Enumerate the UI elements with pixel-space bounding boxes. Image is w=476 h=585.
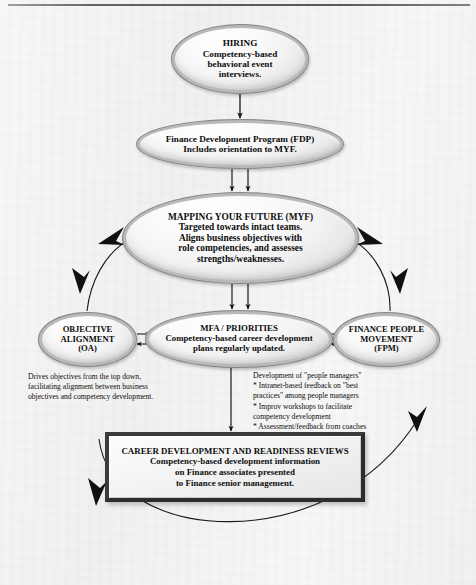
node-crr-body: Competency-based development information…: [121, 456, 348, 488]
node-crr-text: CAREER DEVELOPMENT AND READINESS REVIEWS…: [115, 446, 354, 489]
node-fdp-text: Finance Development Program (FDP) Includ…: [160, 134, 321, 155]
node-oa-heading: OBJECTIVE ALIGNMENT (OA): [61, 325, 115, 354]
node-hiring-text: HIRING Competency-based behavioral event…: [197, 38, 284, 79]
node-myf-body: Targeted towards intact teams. Aligns bu…: [168, 222, 313, 264]
node-hiring-body: Competency-based behavioral event interv…: [203, 49, 278, 80]
node-finance-development-program[interactable]: Finance Development Program (FDP) Includ…: [136, 119, 344, 169]
note-objective-alignment: Drives objectives from the top down, fac…: [28, 372, 224, 403]
node-mfa-priorities[interactable]: MFA / PRIORITIES Competency-based career…: [145, 310, 333, 368]
connector-myf-to-mfa: [232, 284, 248, 309]
node-fdp-body: Includes orientation to MYF.: [166, 144, 315, 154]
connector-fdp-to-myf: [232, 169, 248, 191]
node-fpm-heading: FINANCE PEOPLE MOVEMENT (FPM): [349, 325, 425, 354]
node-crr-heading: CAREER DEVELOPMENT AND READINESS REVIEWS: [121, 446, 348, 457]
node-mfa-body: Competency-based career development plan…: [165, 334, 312, 354]
node-finance-people-movement[interactable]: FINANCE PEOPLE MOVEMENT (FPM): [333, 312, 440, 367]
node-mapping-your-future[interactable]: MAPPING YOUR FUTURE (MYF) Targeted towar…: [122, 192, 359, 284]
node-career-development-readiness-reviews[interactable]: CAREER DEVELOPMENT AND READINESS REVIEWS…: [105, 432, 365, 502]
diagram-page: HIRING Competency-based behavioral event…: [0, 0, 476, 585]
node-fpm-text: FINANCE PEOPLE MOVEMENT (FPM): [343, 325, 431, 354]
node-myf-text: MAPPING YOUR FUTURE (MYF) Targeted towar…: [162, 212, 319, 265]
node-myf-heading: MAPPING YOUR FUTURE (MYF): [168, 212, 313, 223]
node-mfa-text: MFA / PRIORITIES Competency-based career…: [159, 324, 318, 354]
node-hiring[interactable]: HIRING Competency-based behavioral event…: [171, 24, 309, 94]
node-fdp-heading: Finance Development Program (FDP): [166, 134, 315, 144]
node-oa-text: OBJECTIVE ALIGNMENT (OA): [55, 325, 121, 354]
note-finance-people-movement: Development of "people managers" * Intra…: [253, 371, 461, 432]
node-objective-alignment[interactable]: OBJECTIVE ALIGNMENT (OA): [38, 312, 137, 367]
node-hiring-heading: HIRING: [203, 38, 278, 48]
